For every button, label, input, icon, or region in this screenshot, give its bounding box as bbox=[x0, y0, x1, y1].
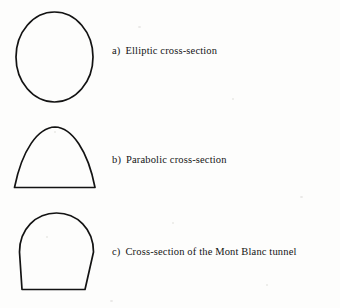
caption-text-a: Elliptic cross-section bbox=[125, 45, 217, 56]
shape-parabola bbox=[15, 127, 96, 188]
caption-marker-b: b) bbox=[112, 154, 121, 166]
figure-root: a)Elliptic cross-section b)Parabolic cro… bbox=[0, 0, 340, 308]
shape-ellipse bbox=[16, 12, 93, 102]
caption-text-b: Parabolic cross-section bbox=[126, 154, 227, 165]
caption-marker-c: c) bbox=[112, 246, 120, 258]
shape-mont-blanc-arch bbox=[20, 213, 94, 290]
caption-elliptic: a)Elliptic cross-section bbox=[112, 45, 217, 57]
caption-text-c: Cross-section of the Mont Blanc tunnel bbox=[125, 246, 296, 257]
caption-parabolic: b)Parabolic cross-section bbox=[112, 154, 227, 166]
caption-marker-a: a) bbox=[112, 45, 120, 57]
caption-mont-blanc: c)Cross-section of the Mont Blanc tunnel bbox=[112, 246, 297, 258]
